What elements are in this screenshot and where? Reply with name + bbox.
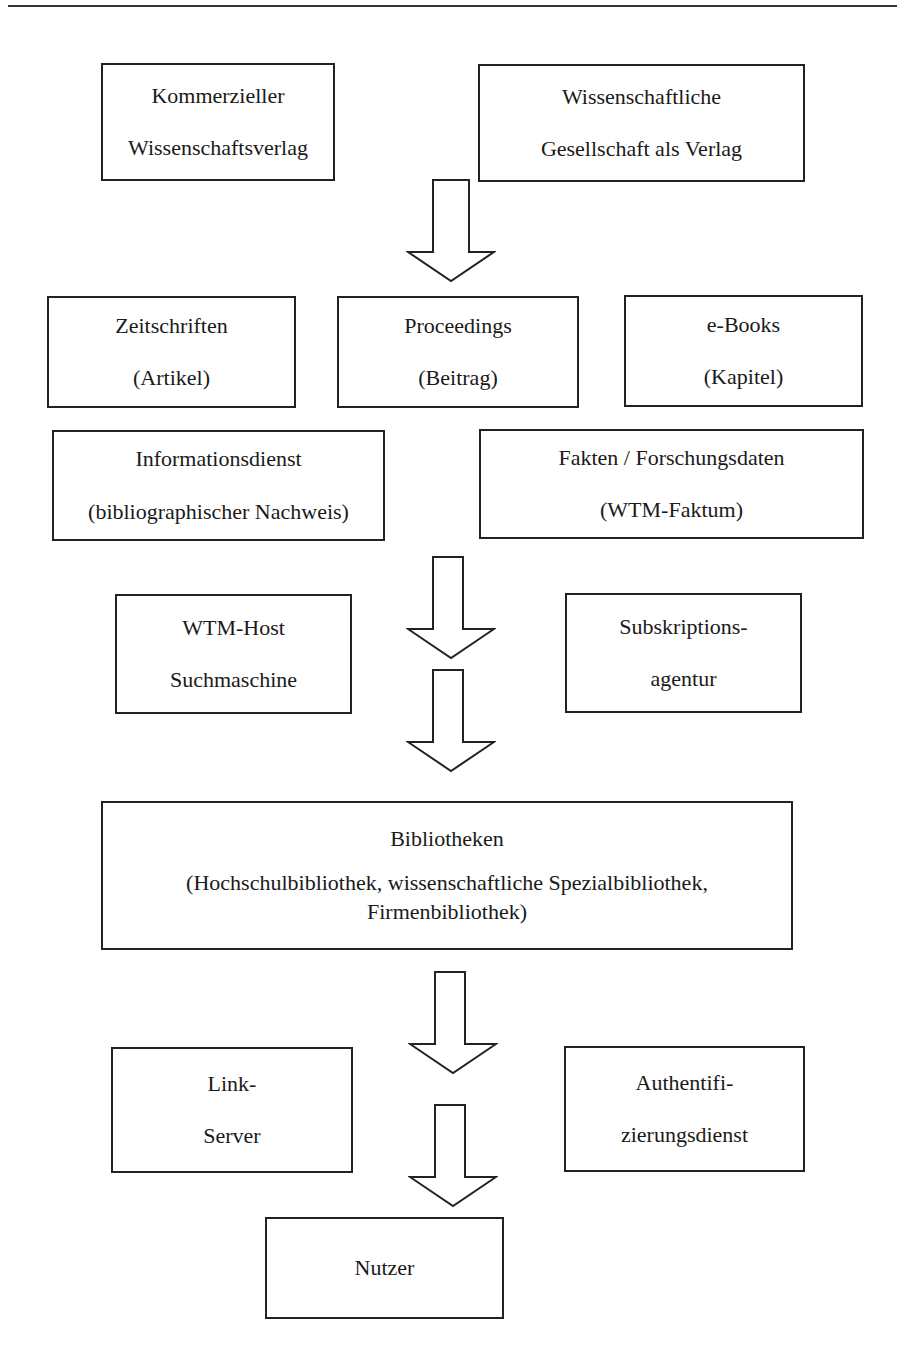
box-line: zierungsdienst [621,1122,748,1148]
box-line: Zeitschriften [115,313,227,339]
box-line: Gesellschaft als Verlag [541,136,742,162]
box-society-publisher: Wissenschaftliche Gesellschaft als Verla… [478,64,805,182]
box-line: (Kapitel) [704,364,783,390]
box-line: Kommerzieller [151,83,284,109]
box-end-user: Nutzer [265,1217,504,1319]
box-line: WTM-Host [182,615,285,641]
box-line: Suchmaschine [170,667,297,693]
down-arrow-icon [408,970,498,1075]
libraries-types-line1: (Hochschulbibliothek, wissenschaftliche … [186,870,708,896]
box-line: Informationsdienst [135,446,301,472]
box-line: Authentifi- [636,1070,734,1096]
box-line: Link- [208,1071,257,1097]
libraries-types-line2: Firmenbibliothek) [367,899,527,925]
box-line: Wissenschaftsverlag [128,135,308,161]
box-line: (Artikel) [133,365,210,391]
box-research-data: Fakten / Forschungsdaten (WTM-Faktum) [479,429,864,539]
box-line: (Beitrag) [418,365,497,391]
box-authentication-service: Authentifi- zierungsdienst [564,1046,805,1172]
box-link-server: Link- Server [111,1047,353,1173]
box-line: agentur [651,666,717,692]
box-line: (bibliographischer Nachweis) [88,499,349,525]
down-arrow-icon [408,1103,498,1208]
box-journals: Zeitschriften (Artikel) [47,296,296,408]
box-line: Subskriptions- [619,614,747,640]
box-line: e-Books [707,312,780,338]
down-arrow-icon [406,555,496,660]
box-libraries: Bibliotheken (Hochschulbibliothek, wisse… [101,801,793,950]
box-subscription-agency: Subskriptions- agentur [565,593,802,713]
box-wtm-host-search-engine: WTM-Host Suchmaschine [115,594,352,714]
box-line: Server [203,1123,260,1149]
box-commercial-publisher: Kommerzieller Wissenschaftsverlag [101,63,335,181]
box-line: Proceedings [404,313,512,339]
down-arrow-icon [406,178,496,283]
box-line: Wissenschaftliche [562,84,721,110]
libraries-title: Bibliotheken [390,826,504,852]
box-proceedings: Proceedings (Beitrag) [337,296,579,408]
box-line: Fakten / Forschungsdaten [558,445,784,471]
end-user-label: Nutzer [355,1255,415,1281]
box-line: (WTM-Faktum) [600,497,743,523]
box-ebooks: e-Books (Kapitel) [624,295,863,407]
box-information-service: Informationsdienst (bibliographischer Na… [52,430,385,541]
top-rule [8,5,897,7]
down-arrow-icon [406,668,496,773]
